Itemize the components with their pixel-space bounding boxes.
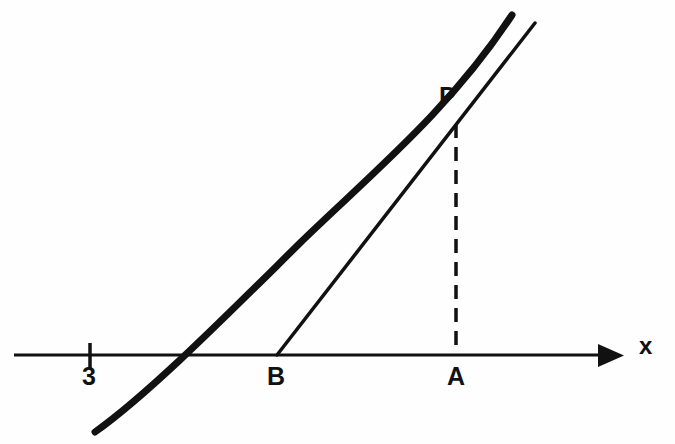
tick-label-3: 3 [82, 364, 96, 389]
tangent-line [277, 23, 535, 355]
diagram-svg [0, 0, 675, 444]
point-label-p: P [439, 84, 456, 109]
x-axis-arrowhead [598, 344, 624, 367]
axis-label-x: x [639, 334, 652, 358]
point-label-b: B [267, 364, 285, 389]
point-label-a: A [447, 364, 465, 389]
figure-canvas: P B A 3 x [0, 0, 675, 444]
